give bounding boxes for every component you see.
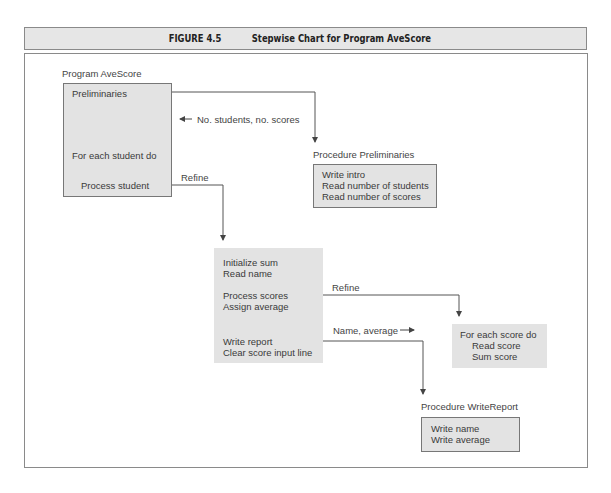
name-average-annotation: Name, average xyxy=(333,325,398,336)
process-student-line: Write report xyxy=(223,336,272,347)
process-student-line: Read name xyxy=(223,268,272,279)
preliminaries-box: Write intro Read number of students Read… xyxy=(313,164,437,208)
process-student-line: Initialize sum xyxy=(223,257,278,268)
refine-annotation-2: Refine xyxy=(332,282,359,293)
writereport-box: Write name Write average xyxy=(421,417,520,452)
program-label: Program AveScore xyxy=(62,68,142,79)
writereport-label: Procedure WriteReport xyxy=(421,401,518,412)
process-scores-line: For each score do xyxy=(460,329,537,340)
process-scores-line: Read score xyxy=(472,340,521,351)
process-student-line: Clear score input line xyxy=(223,347,312,358)
process-scores-line: Sum score xyxy=(472,351,517,362)
program-box: Preliminaries For each student do Proces… xyxy=(63,83,172,197)
program-line-process-student: Process student xyxy=(81,180,149,191)
preliminaries-line: Read number of students xyxy=(322,180,429,191)
process-student-line: Assign average xyxy=(223,301,288,312)
refine-annotation-1: Refine xyxy=(181,172,208,183)
preliminaries-line: Write intro xyxy=(322,169,365,180)
program-line-for-each-student: For each student do xyxy=(72,150,157,161)
process-student-line: Process scores xyxy=(223,290,288,301)
program-line-preliminaries: Preliminaries xyxy=(72,88,127,99)
writereport-line: Write average xyxy=(431,434,490,445)
process-scores-box: For each score do Read score Sum score xyxy=(452,324,547,368)
preliminaries-line: Read number of scores xyxy=(322,191,421,202)
process-student-box: Initialize sum Read name Process scores … xyxy=(214,248,323,363)
no-students-annotation: No. students, no. scores xyxy=(197,114,299,125)
preliminaries-label: Procedure Preliminaries xyxy=(313,149,414,160)
writereport-line: Write name xyxy=(431,423,479,434)
